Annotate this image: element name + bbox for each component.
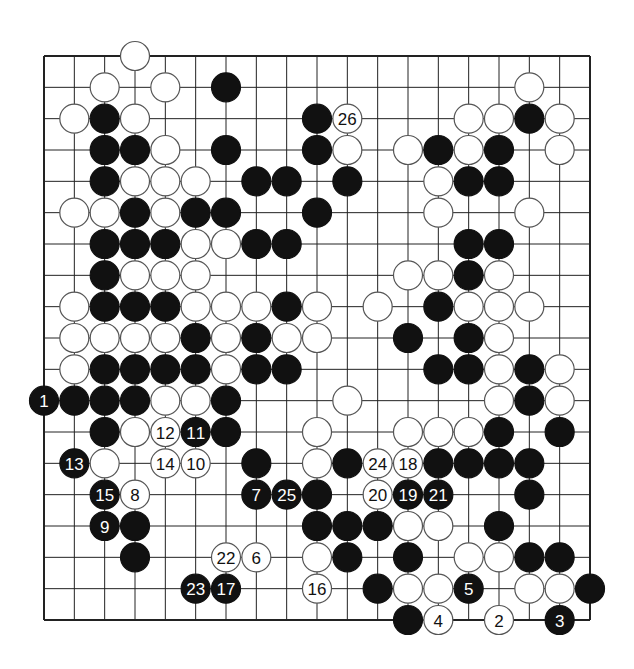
white-stone [121, 324, 150, 353]
stone-circle [303, 104, 332, 133]
white-stone [485, 261, 514, 290]
stone-circle [515, 104, 544, 133]
white-stone [212, 292, 241, 321]
stone-circle [545, 418, 574, 447]
white-stone [545, 574, 574, 603]
black-stone [151, 355, 180, 384]
stone-circle [485, 355, 514, 384]
white-stone [60, 355, 89, 384]
stone-circle [272, 324, 301, 353]
stone-circle [181, 355, 210, 384]
white-stone [181, 292, 210, 321]
black-stone [181, 324, 210, 353]
white-stone [60, 198, 89, 227]
black-stone [272, 355, 301, 384]
stone-circle [60, 292, 89, 321]
stone-circle [424, 418, 453, 447]
move-number: 10 [186, 455, 205, 474]
stone-circle [394, 574, 423, 603]
stone-circle [485, 136, 514, 165]
white-stone [303, 543, 332, 572]
white-stone-move-18: 18 [394, 449, 423, 478]
stone-circle [515, 292, 544, 321]
black-stone [515, 355, 544, 384]
white-stone [454, 292, 483, 321]
stone-circle [394, 324, 423, 353]
white-stone [212, 324, 241, 353]
move-number: 18 [399, 455, 418, 474]
stone-circle [121, 261, 150, 290]
white-stone [515, 574, 544, 603]
stone-circle [303, 136, 332, 165]
black-stone [454, 167, 483, 196]
black-stone [242, 167, 271, 196]
black-stone [90, 136, 119, 165]
white-stone [363, 292, 392, 321]
move-number: 23 [186, 580, 205, 599]
stone-circle [485, 261, 514, 290]
move-number: 6 [252, 549, 261, 568]
black-stone [90, 418, 119, 447]
stone-circle [151, 324, 180, 353]
stone-circle [485, 230, 514, 259]
stone-circle [333, 543, 362, 572]
move-number: 7 [252, 486, 261, 505]
white-stone [545, 355, 574, 384]
black-stone [121, 198, 150, 227]
go-board: 2611211131410241815872520192192262317165… [0, 0, 634, 669]
stone-circle [424, 512, 453, 541]
black-stone-move-13: 13 [60, 449, 89, 478]
stone-circle [515, 543, 544, 572]
white-stone-move-12: 12 [151, 418, 180, 447]
white-stone [333, 386, 362, 415]
stone-circle [121, 230, 150, 259]
stone-circle [212, 355, 241, 384]
stone-circle [121, 512, 150, 541]
white-stone [424, 167, 453, 196]
black-stone [121, 543, 150, 572]
move-number: 24 [368, 455, 387, 474]
white-stone [485, 292, 514, 321]
move-number: 26 [338, 110, 357, 129]
stone-circle [333, 136, 362, 165]
black-stone [515, 449, 544, 478]
white-stone [181, 386, 210, 415]
black-stone [333, 449, 362, 478]
move-number: 4 [434, 612, 443, 631]
black-stone-move-7: 7 [242, 480, 271, 509]
stone-circle [545, 355, 574, 384]
white-stone [151, 136, 180, 165]
black-stone [121, 136, 150, 165]
stone-circle [90, 418, 119, 447]
stone-circle [212, 418, 241, 447]
move-number: 15 [95, 486, 114, 505]
stone-circle [333, 167, 362, 196]
white-stone [272, 324, 301, 353]
stone-circle [333, 386, 362, 415]
stone-circle [242, 449, 271, 478]
move-number: 13 [65, 455, 84, 474]
white-stone-move-16: 16 [303, 574, 332, 603]
black-stone-move-19: 19 [394, 480, 423, 509]
stone-circle [363, 574, 392, 603]
black-stone [242, 230, 271, 259]
black-stone [485, 512, 514, 541]
black-stone [485, 230, 514, 259]
black-stone [454, 355, 483, 384]
stone-circle [515, 449, 544, 478]
stone-circle [576, 574, 605, 603]
stone-circle [90, 73, 119, 102]
black-stone [212, 73, 241, 102]
black-stone [545, 418, 574, 447]
black-stone [212, 136, 241, 165]
white-stone [181, 261, 210, 290]
black-stone [121, 230, 150, 259]
white-stone [60, 104, 89, 133]
stone-circle [303, 512, 332, 541]
stone-circle [242, 167, 271, 196]
white-stone-move-14: 14 [151, 449, 180, 478]
stone-circle [515, 198, 544, 227]
white-stone [60, 292, 89, 321]
stone-circle [424, 167, 453, 196]
stone-circle [151, 386, 180, 415]
